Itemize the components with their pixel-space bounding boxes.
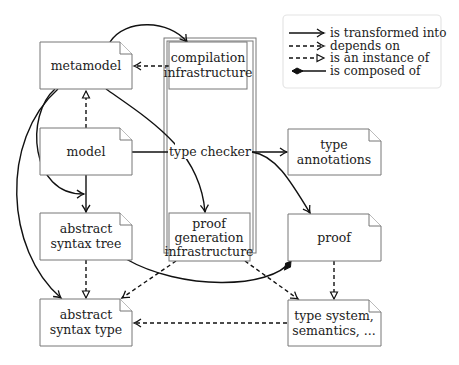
node-type-system[interactable]: type system, semantics, ... [288, 300, 381, 346]
node-model[interactable]: model [40, 128, 132, 175]
node-abstract-syntax-type[interactable]: abstract syntax type [40, 299, 132, 346]
node-compilation-infrastructure[interactable]: compilation infrastructure [163, 42, 252, 89]
node-type-system-label-1: type system, [294, 308, 374, 323]
node-proof-generation-infrastructure[interactable]: proof generation infrastructure [164, 213, 253, 261]
node-type-annotations-label-1: type [320, 137, 347, 152]
diagram-canvas: is transformed into depends on is an ins… [0, 0, 459, 365]
node-proofgen-label-2: generation [175, 230, 244, 245]
node-type-annotations-label-2: annotations [297, 152, 372, 167]
node-ast-label-2: syntax tree [51, 236, 122, 251]
legend: is transformed into depends on is an ins… [283, 15, 446, 88]
node-compilation-label-1: compilation [171, 50, 245, 65]
node-type-system-label-2: semantics, ... [292, 323, 375, 338]
node-astype-label-2: syntax type [50, 322, 123, 337]
node-model-label: model [67, 144, 106, 159]
node-astype-label-1: abstract [60, 307, 112, 322]
legend-label-transformed: is transformed into [330, 26, 446, 40]
node-metamodel[interactable]: metamodel [40, 42, 132, 89]
node-proofgen-label-3: infrastructure [164, 244, 253, 259]
node-type-annotations[interactable]: type annotations [288, 129, 381, 175]
legend-label-instance: is an instance of [330, 51, 431, 65]
node-type-checker-label: type checker [169, 144, 251, 159]
edge-metamodel-to-compilation [110, 25, 187, 42]
node-compilation-label-2: infrastructure [163, 65, 252, 80]
node-proof[interactable]: proof [288, 214, 381, 261]
node-abstract-syntax-tree[interactable]: abstract syntax tree [40, 213, 132, 260]
node-proof-label: proof [317, 230, 352, 245]
legend-label-composed: is composed of [330, 64, 422, 78]
node-type-checker[interactable]: type checker [169, 143, 251, 159]
edge-proofgen-to-astype [122, 261, 176, 298]
node-ast-label-1: abstract [60, 221, 112, 236]
node-proofgen-label-1: proof [192, 216, 227, 231]
node-metamodel-label: metamodel [51, 58, 122, 73]
